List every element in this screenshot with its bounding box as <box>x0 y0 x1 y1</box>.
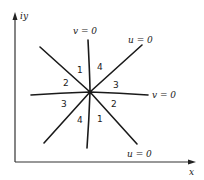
region-label: 2 <box>63 78 69 88</box>
label-v0-top: v = 0 <box>73 26 97 36</box>
y-axis-label: iy <box>20 11 29 21</box>
x-axis-label: x <box>189 167 194 177</box>
label-u0-top: u = 0 <box>128 35 153 45</box>
region-label: 3 <box>61 99 67 109</box>
region-label: 1 <box>77 65 83 75</box>
region-label: 3 <box>113 80 119 90</box>
y-axis-arrow-icon <box>13 12 18 20</box>
label-u0-bottom: u = 0 <box>127 149 152 159</box>
region-label: 4 <box>77 115 83 125</box>
region-label: 4 <box>97 62 103 72</box>
diagram-canvas: iy x v = 0 u = 0 v = 0 u = 0 1 4 2 3 3 2… <box>0 0 204 180</box>
label-v0-right: v = 0 <box>152 90 176 100</box>
curves <box>31 40 148 148</box>
saddle-point <box>88 90 92 94</box>
region-label: 1 <box>97 114 103 124</box>
region-label: 2 <box>111 99 117 109</box>
x-axis-arrow-icon <box>188 160 196 165</box>
